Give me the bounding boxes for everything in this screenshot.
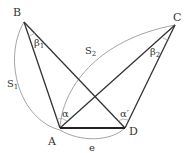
angle-alpha-prime-arc xyxy=(118,119,128,121)
label-point-c: C xyxy=(173,11,181,24)
label-point-d: D xyxy=(129,125,138,138)
segment-ac xyxy=(60,25,175,128)
label-beta2: β2 xyxy=(150,46,160,59)
angle-beta1-arc xyxy=(28,33,35,36)
label-alpha: α xyxy=(62,108,69,119)
segment-ba xyxy=(24,22,60,128)
segment-cd xyxy=(125,25,175,128)
geometry-diagram: B C A D β1 β2 α α′ S1 S2 e xyxy=(0,0,192,153)
label-s2: S2 xyxy=(85,45,96,58)
label-point-b: B xyxy=(13,6,21,19)
label-alpha-prime: α′ xyxy=(120,108,130,119)
arc-s1 xyxy=(15,22,125,139)
label-beta1: β1 xyxy=(34,37,44,50)
label-e: e xyxy=(89,142,95,153)
label-point-a: A xyxy=(47,135,57,148)
